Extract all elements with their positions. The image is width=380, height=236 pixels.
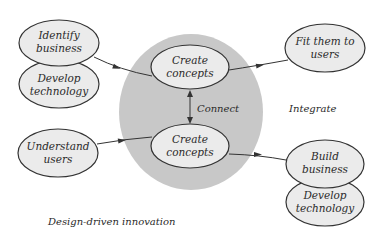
node-create-concepts-bottom: Create concepts <box>151 124 229 168</box>
node-label-line1: Create <box>172 133 208 145</box>
node-label-line1: Identify <box>37 29 80 41</box>
node-label-line1: Create <box>172 54 208 66</box>
node-build-business: Build business <box>286 140 364 188</box>
diagram-caption: Design-driven innovation <box>47 216 175 227</box>
node-label-line2: users <box>44 153 73 165</box>
node-label-line2: business <box>36 42 83 54</box>
node-label-line1: Develop <box>302 189 346 201</box>
node-create-concepts-top: Create concepts <box>151 45 229 89</box>
node-label-line2: concepts <box>166 146 214 158</box>
node-label-line1: Fit them to <box>294 35 354 47</box>
integrate-label: Integrate <box>288 103 336 114</box>
node-develop-technology-left: Develop technology <box>19 60 99 108</box>
connect-label: Connect <box>197 103 240 114</box>
node-fit-them-to-users: Fit them to users <box>285 24 365 72</box>
node-identify-business: Identify business <box>19 20 99 66</box>
node-label-line1: Understand <box>27 140 90 152</box>
node-label-line1: Build <box>310 150 339 162</box>
design-driven-innovation-diagram: Develop technology Identify business Cre… <box>0 0 380 236</box>
node-label-line1: Develop <box>36 72 80 84</box>
node-label-line2: business <box>302 163 349 175</box>
node-label-line2: technology <box>296 202 356 214</box>
node-label-line2: users <box>311 48 340 60</box>
node-label-line2: concepts <box>166 67 214 79</box>
node-label-line2: technology <box>30 85 90 97</box>
node-understand-users: Understand users <box>18 129 98 177</box>
